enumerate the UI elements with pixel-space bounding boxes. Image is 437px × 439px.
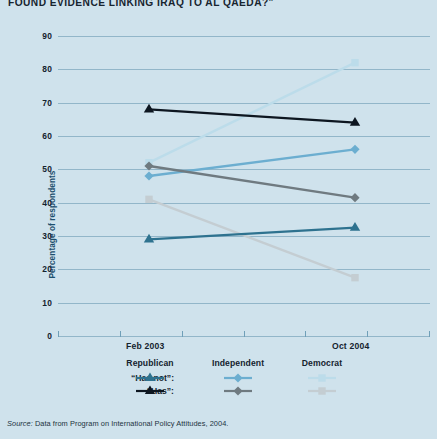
x-axis-tick xyxy=(58,331,59,337)
source-label: Source: xyxy=(7,419,33,428)
x-axis-tick xyxy=(120,331,121,337)
data-point-marker xyxy=(318,387,325,394)
data-point-marker xyxy=(350,193,359,202)
x-axis-tick xyxy=(367,331,368,337)
data-point-marker xyxy=(351,59,358,66)
y-axis-tick-labels: 0102030405060708090 xyxy=(22,36,52,336)
legend-party-democrat: Democrat xyxy=(285,358,359,368)
data-point-marker xyxy=(144,171,153,180)
y-axis-tick-label: 0 xyxy=(22,331,52,341)
data-point-marker xyxy=(350,222,360,231)
data-point-marker xyxy=(145,385,155,394)
x-axis-tick-label: Feb 2003 xyxy=(126,341,164,351)
data-point-marker xyxy=(145,196,152,203)
data-point-marker xyxy=(233,386,242,395)
y-axis-tick-label: 70 xyxy=(22,98,52,108)
y-axis-tick-label: 20 xyxy=(22,264,52,274)
y-axis-tick-label: 40 xyxy=(22,198,52,208)
x-axis-tick xyxy=(429,331,430,337)
x-axis-tick-label: Oct 2004 xyxy=(332,341,369,351)
series-line xyxy=(149,149,355,176)
series-group xyxy=(145,59,358,166)
legend-party-republican: Republican xyxy=(113,358,187,368)
data-point-marker xyxy=(351,274,358,281)
legend-swatch xyxy=(305,385,339,397)
series-group xyxy=(144,104,360,126)
data-point-marker xyxy=(350,145,359,154)
legend-swatch xyxy=(305,372,339,384)
y-axis-title-container: Percentage of respondents xyxy=(8,70,22,300)
y-axis-tick-label: 50 xyxy=(22,164,52,174)
source-text: Data from Program on International Polic… xyxy=(33,419,229,428)
legend: RepublicanIndependentDemocrat“Has not”:“… xyxy=(112,358,372,404)
data-point-marker xyxy=(318,374,325,381)
data-point-marker xyxy=(144,104,154,113)
legend-party-independent: Independent xyxy=(201,358,275,368)
legend-swatch xyxy=(221,372,255,384)
data-point-marker xyxy=(233,373,242,382)
legend-swatch xyxy=(221,385,255,397)
series-lines xyxy=(58,36,430,336)
x-axis-tick xyxy=(244,331,245,337)
page-title: Found Evidence Linking Iraq to Al Qaeda?… xyxy=(8,0,428,8)
chart-figure: Found Evidence Linking Iraq to Al Qaeda?… xyxy=(0,0,437,439)
series-line xyxy=(149,166,355,198)
legend-swatch xyxy=(133,385,167,397)
y-axis-tick-label: 80 xyxy=(22,64,52,74)
series-group xyxy=(144,161,359,202)
data-point-marker xyxy=(145,372,155,381)
y-axis-tick-label: 90 xyxy=(22,31,52,41)
x-axis-ticks xyxy=(58,331,430,338)
plot-area xyxy=(58,36,430,336)
series-line xyxy=(149,63,355,163)
y-axis-tick-label: 30 xyxy=(22,231,52,241)
x-axis-tick xyxy=(305,331,306,337)
y-axis-tick-label: 60 xyxy=(22,131,52,141)
legend-swatch xyxy=(133,372,167,384)
y-axis-tick-label: 10 xyxy=(22,298,52,308)
x-axis-tick xyxy=(182,331,183,337)
source-note: Source: Data from Program on Internation… xyxy=(7,419,228,428)
